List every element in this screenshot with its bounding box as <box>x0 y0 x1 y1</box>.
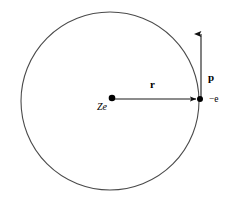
circular-orbit <box>21 12 199 190</box>
physics-orbit-figure: Ze r p −e <box>0 0 232 204</box>
electron-dot <box>197 96 203 102</box>
electron-charge-label: −e <box>209 95 219 105</box>
nucleus-charge-label: Ze <box>97 102 107 112</box>
momentum-label: p <box>208 72 214 83</box>
figure-canvas <box>0 0 232 204</box>
radius-label: r <box>150 79 155 90</box>
nucleus-dot <box>109 95 116 102</box>
